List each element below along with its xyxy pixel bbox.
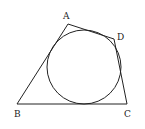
quadrilateral-diagram: A B C D xyxy=(0,0,145,129)
vertex-label-b: B xyxy=(14,109,21,119)
vertex-label-c: C xyxy=(124,109,131,119)
diagram-canvas: A B C D xyxy=(0,0,145,129)
quadrilateral-abcd xyxy=(17,24,127,104)
vertex-label-d: D xyxy=(117,32,124,42)
inscribed-circle xyxy=(47,30,121,104)
vertex-label-a: A xyxy=(62,11,70,21)
